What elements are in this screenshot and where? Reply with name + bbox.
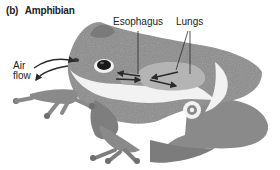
- air-flow-label-line2: flow: [13, 71, 43, 81]
- nostril: [73, 58, 79, 62]
- air-flow-label: Air flow: [13, 61, 43, 81]
- eye: [94, 59, 114, 73]
- tympanum: [183, 101, 201, 119]
- lungs-label: Lungs: [176, 17, 203, 27]
- esophagus-label: Esophagus: [113, 17, 163, 27]
